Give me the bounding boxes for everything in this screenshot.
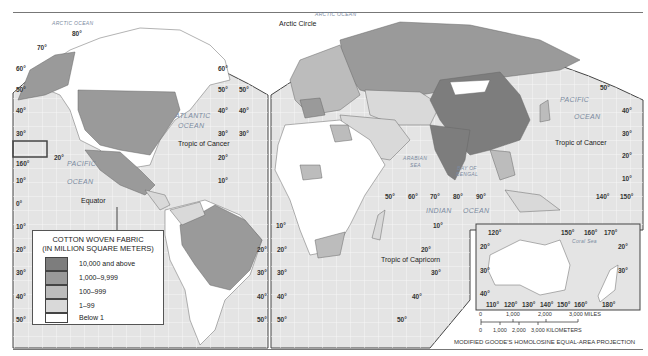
legend-title-line2: (IN MILLION SQUARE METERS) [33, 244, 163, 253]
legend: COTTON WOVEN FABRIC (IN MILLION SQUARE M… [32, 230, 164, 325]
deg-10-e1: 10° [218, 177, 228, 184]
label-pacific-west-1: PACIFIC [67, 160, 96, 167]
deg-10s-india: 10° [433, 222, 443, 229]
deg-50s-india: 50° [397, 316, 407, 323]
label-arctic-ocean-west: ARCTIC OCEAN [52, 20, 93, 26]
scale-miles-2000: 2,000 [538, 311, 552, 317]
deg-60e: 60° [408, 193, 418, 200]
deg-60-w: 60° [16, 65, 26, 72]
deg-40s-w: 40° [16, 293, 26, 300]
label-pacific-east-2: OCEAN [574, 113, 600, 120]
label-bay-bengal-2: BENGAL [456, 171, 478, 177]
deg-30-pac: 30° [622, 130, 632, 137]
legend-item-100-999: 100–999 [45, 285, 155, 300]
deg-50-w: 50° [16, 86, 26, 93]
legend-label: 10,000 and above [79, 260, 135, 267]
deg-40-pac: 40° [622, 107, 632, 114]
deg-50s-e1: 50° [257, 316, 267, 323]
deg-90e: 90° [476, 193, 486, 200]
deg-20-aus-w: 20° [480, 243, 490, 250]
label-atlantic-1: ATLANTIC [175, 112, 211, 119]
deg-40-w: 40° [16, 107, 26, 114]
scale-km-2000: 2,000 [512, 327, 526, 333]
label-indian-1: INDIAN [426, 207, 452, 214]
label-arctic-circle: Arctic Circle [279, 20, 316, 27]
legend-label: 100–999 [79, 288, 106, 295]
deg-50-e2: 50° [239, 86, 249, 93]
deg-150e: 150° [620, 193, 633, 200]
deg-80: 80° [72, 30, 82, 37]
label-tropic-cancer-west: Tropic of Cancer [178, 140, 229, 147]
label-atlantic-2: OCEAN [178, 122, 204, 129]
deg-110-aus: 110° [486, 301, 499, 308]
deg-160b-aus: 160° [574, 301, 587, 308]
eastern-lobe [271, 22, 643, 348]
legend-item-1-99: 1–99 [45, 299, 155, 314]
deg-50-e1: 50° [218, 86, 228, 93]
deg-160-aus: 160° [584, 229, 597, 236]
deg-40s-e1: 40° [257, 293, 267, 300]
deg-140-aus: 140° [540, 301, 553, 308]
label-coral-sea: Coral Sea [572, 238, 597, 244]
legend-item-below-1: Below 1 [45, 313, 155, 323]
deg-40-aus: 40° [480, 290, 490, 297]
deg-80e: 80° [453, 193, 463, 200]
deg-20-pac: 20° [622, 152, 632, 159]
deg-150-aus: 150° [561, 229, 574, 236]
deg-10s-e2: 10° [276, 222, 286, 229]
legend-swatch [45, 299, 68, 313]
deg-30-e2: 30° [239, 130, 249, 137]
deg-30s-india: 30° [431, 269, 441, 276]
deg-30-aus-w: 30° [480, 267, 490, 274]
deg-50s-e2: 50° [277, 316, 287, 323]
deg-10-w: 10° [16, 177, 26, 184]
deg-30s-w: 30° [16, 269, 26, 276]
deg-20s-india: 20° [421, 246, 431, 253]
legend-swatch [45, 285, 68, 299]
scale-miles-1000: 1,000 [506, 311, 520, 317]
deg-10s-w: 10° [16, 223, 26, 230]
label-equator: Equator [81, 197, 106, 204]
legend-label: 1–99 [79, 302, 95, 309]
scale-km-0: 0 [479, 327, 482, 333]
label-pacific-west-2: OCEAN [67, 178, 93, 185]
deg-20s-e1: 20° [257, 246, 267, 253]
deg-30s-e1: 30° [257, 269, 267, 276]
label-pacific-east-1: PACIFIC [560, 96, 589, 103]
deg-20s-w: 20° [16, 246, 26, 253]
deg-160: 160° [16, 160, 29, 167]
legend-item-1000-9999: 1,000–9,999 [45, 271, 155, 286]
deg-20-aus-e: 20° [618, 243, 628, 250]
label-tropic-capricorn: Tropic of Capricorn [381, 256, 440, 263]
deg-170-aus: 170° [604, 229, 617, 236]
scale-miles-0: 0 [479, 311, 482, 317]
label-tropic-cancer-east: Tropic of Cancer [555, 139, 606, 146]
legend-label: Below 1 [79, 314, 104, 321]
legend-item-10000-plus: 10,000 and above [45, 257, 155, 272]
deg-50e: 50° [385, 193, 395, 200]
deg-60-e1: 60° [218, 65, 228, 72]
deg-30s-e2: 30° [277, 269, 287, 276]
deg-20-w: 20° [54, 154, 64, 161]
deg-0-w: 0° [16, 200, 22, 207]
legend-title-line1: COTTON WOVEN FABRIC [33, 235, 163, 244]
legend-swatch [45, 257, 68, 271]
deg-30-e1: 30° [218, 130, 228, 137]
deg-40-e1: 40° [218, 107, 228, 114]
legend-swatch [45, 313, 68, 323]
legend-label: 1,000–9,999 [79, 274, 118, 281]
deg-140e: 140° [596, 193, 609, 200]
deg-40s-india: 40° [412, 293, 422, 300]
label-arctic-ocean-east: ARCTIC OCEAN [315, 11, 356, 17]
scale-bar: 0 1,000 2,000 3,000 MILES 0 1,000 2,000 … [478, 312, 638, 352]
scale-km-1000: 1,000 [493, 327, 507, 333]
deg-130-aus: 130° [522, 301, 535, 308]
label-indian-2: OCEAN [463, 207, 489, 214]
deg-20s-e2: 20° [277, 246, 287, 253]
label-arabian-sea-1: ARABIAN [403, 155, 427, 161]
deg-50s-w: 50° [16, 316, 26, 323]
deg-120-aus: 120° [488, 229, 501, 236]
deg-30-aus-e: 30° [618, 267, 628, 274]
deg-20-e1: 20° [218, 154, 228, 161]
projection-label: MODIFIED GOODE'S HOMOLOSINE EQUAL-AREA P… [454, 339, 635, 345]
